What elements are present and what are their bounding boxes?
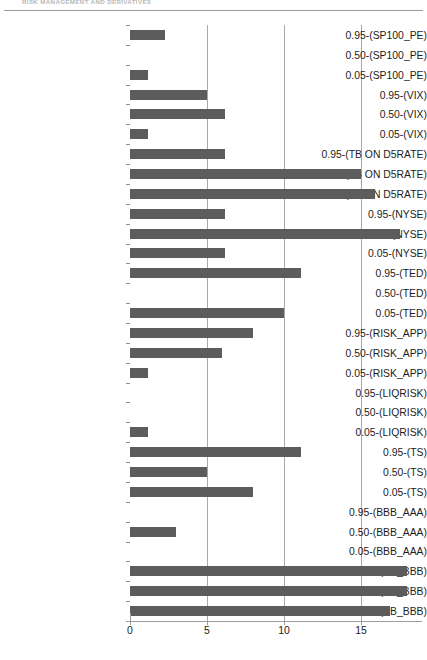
y-axis-tick	[126, 45, 130, 46]
category-label: 0.95-(SP100_PE)	[303, 29, 427, 40]
category-label: 0.05-(LIQRISK)	[303, 427, 427, 438]
page-running-head: RISK MANAGEMENT AND DERIVATIVES	[0, 0, 427, 13]
x-axis-tick-label: 10	[264, 625, 304, 636]
chart-row: 0.05-(VIX)	[0, 124, 427, 144]
y-axis-tick	[126, 383, 130, 384]
y-axis-tick	[126, 224, 130, 225]
category-label: 0.95-(BBB_AAA)	[303, 506, 427, 517]
y-axis-tick	[126, 343, 130, 344]
chart-row: 0.50-(TED)	[0, 283, 427, 303]
bar	[130, 328, 253, 338]
chart-row: 0.95-(TED)	[0, 263, 427, 283]
bar	[130, 129, 148, 139]
category-label: 0.50-(RISK_APP)	[303, 347, 427, 358]
category-label: 0.95-(LIQRISK)	[303, 387, 427, 398]
chart-row: 0.50-(RISK_APP)	[0, 343, 427, 363]
y-axis-tick	[126, 542, 130, 543]
bar	[130, 447, 301, 457]
chart-row: 0.95-(RISK_APP)	[0, 323, 427, 343]
x-axis-tick-label: 0	[110, 625, 150, 636]
chart-row: 0.95-(NYSE)	[0, 204, 427, 224]
chart-row: 0.95-(TB ON D5RATE)	[0, 144, 427, 164]
chart-row: 0.05-(BB_BBB)	[0, 601, 427, 621]
bar	[130, 348, 222, 358]
y-axis-tick	[126, 561, 130, 562]
running-head-text: RISK MANAGEMENT AND DERIVATIVES	[22, 0, 151, 6]
y-axis-tick	[126, 502, 130, 503]
y-axis-tick	[126, 85, 130, 86]
y-axis-tick	[126, 422, 130, 423]
y-axis-tick	[126, 184, 130, 185]
chart-row: 0.50-(NYSE)	[0, 224, 427, 244]
bar	[130, 30, 165, 40]
chart-row: 0.50-(TB ON D5RATE)	[0, 164, 427, 184]
bar	[130, 229, 400, 239]
bar	[130, 527, 176, 537]
chart-row: 0.50-(LIQRISK)	[0, 402, 427, 422]
category-label: 0.95-(NYSE)	[303, 208, 427, 219]
chart-row: 0.05-(NYSE)	[0, 244, 427, 264]
chart-row: 0.50-(BBB_AAA)	[0, 522, 427, 542]
category-label: 0.05-(VIX)	[303, 129, 427, 140]
category-label: 0.50-(BBB_AAA)	[303, 526, 427, 537]
x-axis-line	[126, 621, 422, 622]
category-label: 0.95-(VIX)	[303, 89, 427, 100]
category-label: 0.50-(LIQRISK)	[303, 407, 427, 418]
x-axis-tick-label: 15	[341, 625, 381, 636]
y-axis-tick	[126, 244, 130, 245]
chart-row: 0.95-(TS)	[0, 442, 427, 462]
bar	[130, 90, 207, 100]
chart-row: 0.95-(VIX)	[0, 85, 427, 105]
category-label: 0.95-(TED)	[303, 268, 427, 279]
category-label: 0.50-(TED)	[303, 288, 427, 299]
chart-row: 0.05-(RISK_APP)	[0, 363, 427, 383]
bar	[130, 586, 407, 596]
chart-row: 0.95-(SP100_PE)	[0, 25, 427, 45]
y-axis-tick	[126, 581, 130, 582]
chart-row: 0.95-(LIQRISK)	[0, 383, 427, 403]
header-divider	[4, 10, 423, 11]
y-axis-tick	[126, 363, 130, 364]
category-label: 0.05-(RISK_APP)	[303, 367, 427, 378]
bar	[130, 189, 375, 199]
category-label: 0.05-(BBB_AAA)	[303, 546, 427, 557]
chart-row: 0.05-(LIQRISK)	[0, 422, 427, 442]
y-axis-tick	[126, 442, 130, 443]
horizontal-bar-chart: 0.95-(SP100_PE)0.50-(SP100_PE)0.05-(SP10…	[0, 13, 427, 660]
chart-row: 0.05-(SP100_PE)	[0, 65, 427, 85]
y-axis-tick	[126, 263, 130, 264]
chart-row: 0.50-(BB_BBB)	[0, 581, 427, 601]
y-axis-tick	[126, 65, 130, 66]
bar	[130, 427, 148, 437]
bar	[130, 169, 361, 179]
bar	[130, 308, 284, 318]
bar	[130, 248, 225, 258]
chart-row: 0.05-(BBB_AAA)	[0, 542, 427, 562]
x-axis-tick-label: 5	[187, 625, 227, 636]
category-label: 0.95-(TS)	[303, 447, 427, 458]
bar	[130, 268, 301, 278]
bar	[130, 467, 207, 477]
category-label: 0.05-(TS)	[303, 486, 427, 497]
category-label: 0.50-(TS)	[303, 466, 427, 477]
category-label: 0.05-(TED)	[303, 308, 427, 319]
bar	[130, 566, 407, 576]
bar	[130, 149, 225, 159]
category-label: 0.50-(SP100_PE)	[303, 49, 427, 60]
category-label: 0.05-(SP100_PE)	[303, 69, 427, 80]
y-axis-tick	[126, 323, 130, 324]
y-axis-tick	[126, 164, 130, 165]
chart-row: 0.05-(TED)	[0, 303, 427, 323]
category-label: 0.05-(NYSE)	[303, 248, 427, 259]
bar	[130, 70, 148, 80]
chart-row: 0.05-(TS)	[0, 482, 427, 502]
chart-row: 0.50-(VIX)	[0, 104, 427, 124]
y-axis-tick	[126, 124, 130, 125]
category-label: 0.50-(VIX)	[303, 109, 427, 120]
y-axis-tick	[126, 462, 130, 463]
category-label: 0.95-(TB ON D5RATE)	[303, 149, 427, 160]
y-axis-tick	[126, 283, 130, 284]
y-axis-tick	[126, 204, 130, 205]
bar	[130, 368, 148, 378]
y-axis-tick	[126, 482, 130, 483]
